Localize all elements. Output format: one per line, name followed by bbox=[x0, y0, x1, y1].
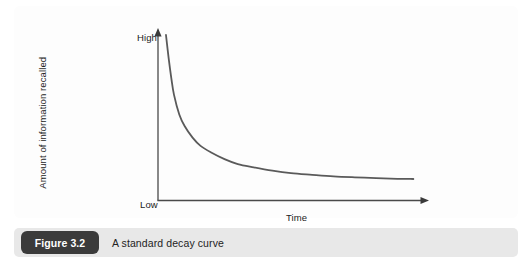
decay-curve-line bbox=[166, 35, 413, 179]
y-axis-label: Amount of information recalled bbox=[38, 38, 48, 208]
decay-curve-chart bbox=[14, 6, 518, 218]
x-axis-label: Time bbox=[286, 213, 307, 223]
y-axis bbox=[154, 28, 161, 201]
y-axis-tick-low: Low bbox=[140, 200, 158, 210]
figure-number-label: Figure 3.2 bbox=[35, 237, 86, 249]
y-axis-tick-high: High bbox=[137, 33, 157, 43]
figure-caption-text: A standard decay curve bbox=[112, 237, 224, 249]
x-axis bbox=[157, 197, 429, 204]
figure-caption-bar: Figure 3.2 A standard decay curve bbox=[14, 228, 518, 257]
figure-number-badge: Figure 3.2 bbox=[21, 231, 99, 254]
figure-3-2: High Low Time Amount of information reca… bbox=[0, 0, 532, 272]
chart-panel: High Low Time Amount of information reca… bbox=[14, 6, 518, 218]
